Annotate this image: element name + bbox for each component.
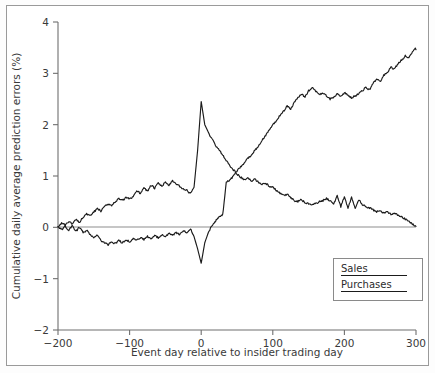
legend-swatch-purchases	[341, 291, 407, 292]
y-tick-label: −2	[34, 324, 49, 336]
y-tick-label: −1	[34, 273, 49, 285]
y-tick-label: 3	[42, 67, 49, 79]
y-tick-label: 0	[42, 221, 49, 233]
x-tick-label: −200	[44, 337, 73, 349]
legend-entry-purchases: Purchases	[341, 279, 415, 292]
legend-label-purchases: Purchases	[341, 279, 415, 290]
y-axis-title: Cumulative daily average prediction erro…	[10, 53, 22, 300]
legend-entry-sales: Sales	[341, 263, 415, 276]
series-line-sales	[58, 102, 416, 227]
legend-swatch-sales	[341, 275, 407, 276]
x-tick-label: 300	[406, 337, 426, 349]
series-group	[58, 48, 416, 263]
figure-container: −2−101234 −200−1000100200300 Event day r…	[0, 0, 435, 373]
chart-plot: −2−101234 −200−1000100200300 Event day r…	[0, 0, 435, 373]
y-tick-label: 1	[42, 170, 49, 182]
x-axis-title: Event day relative to insider trading da…	[131, 346, 343, 358]
y-tick-label: 4	[42, 16, 49, 28]
y-tick-label: 2	[42, 119, 49, 131]
chart-legend: Sales Purchases	[333, 258, 423, 301]
series-line-purchases	[58, 48, 416, 263]
legend-label-sales: Sales	[341, 263, 415, 274]
y-tick-group: −2−101234	[34, 16, 58, 336]
